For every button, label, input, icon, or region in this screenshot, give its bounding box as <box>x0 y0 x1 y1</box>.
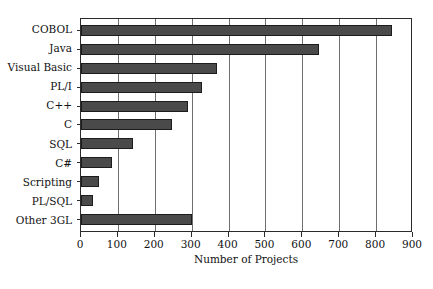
y-axis-tick <box>77 143 81 144</box>
bar-c <box>81 101 188 112</box>
bar-row <box>81 119 411 130</box>
x-axis-tick-label-800: 800 <box>365 237 385 251</box>
y-axis-label-sql: SQL <box>0 139 76 150</box>
bar-row <box>81 214 411 225</box>
y-axis-label-pl-sql: PL/SQL <box>0 196 76 207</box>
bar-c <box>81 157 112 168</box>
y-axis-label-scripting: Scripting <box>0 177 76 188</box>
bar-row <box>81 25 411 36</box>
x-axis-tick-label-700: 700 <box>328 237 348 251</box>
x-axis-title: Number of Projects <box>80 253 412 265</box>
y-axis-tick <box>77 162 81 163</box>
bar-chart: COBOL Java Visual Basic PL/I C++ C SQL C… <box>0 0 433 289</box>
x-axis-tick-label-900: 900 <box>402 237 422 251</box>
y-axis-tick <box>77 124 81 125</box>
bar-pl-i <box>81 82 202 93</box>
bar-row <box>81 157 411 168</box>
y-axis-category-labels: COBOL Java Visual Basic PL/I C++ C SQL C… <box>0 18 76 232</box>
bar-visual-basic <box>81 63 217 74</box>
bar-java <box>81 44 319 55</box>
x-axis-tick-label-500: 500 <box>254 237 274 251</box>
y-axis-tick <box>77 68 81 69</box>
bar-other-3gl <box>81 214 192 225</box>
x-axis-tick-label-200: 200 <box>144 237 164 251</box>
x-axis-tick-label-400: 400 <box>218 237 238 251</box>
bar-row <box>81 176 411 187</box>
bar-cobol <box>81 25 392 36</box>
x-axis-tick-label-300: 300 <box>181 237 201 251</box>
y-axis-label-other-3gl: Other 3GL <box>0 215 76 226</box>
bar-c <box>81 119 172 130</box>
y-axis-tick <box>77 181 81 182</box>
bar-sql <box>81 138 133 149</box>
bar-series <box>81 19 411 231</box>
y-axis-label-cobol: COBOL <box>0 24 76 35</box>
y-axis-tick <box>77 49 81 50</box>
x-axis-tick-label-600: 600 <box>291 237 311 251</box>
y-axis-label-java: Java <box>0 43 76 54</box>
y-axis-tick <box>77 219 81 220</box>
bar-row <box>81 44 411 55</box>
bar-scripting <box>81 176 99 187</box>
bar-row <box>81 63 411 74</box>
plot-area <box>80 18 412 232</box>
y-axis-label-c: C <box>0 119 76 130</box>
bar-row <box>81 138 411 149</box>
y-axis-tick <box>77 106 81 107</box>
x-axis-tick-label-100: 100 <box>107 237 127 251</box>
y-axis-tick <box>77 30 81 31</box>
y-axis-tick <box>77 200 81 201</box>
bar-row <box>81 195 411 206</box>
y-axis-label-csharp: C# <box>0 158 76 169</box>
bar-pl-sql <box>81 195 93 206</box>
bar-row <box>81 101 411 112</box>
y-axis-label-cpp: C++ <box>0 100 76 111</box>
y-axis-label-visual-basic: Visual Basic <box>0 62 76 73</box>
bar-row <box>81 82 411 93</box>
y-axis-tick <box>77 87 81 88</box>
x-axis-tick-label-0: 0 <box>77 237 84 251</box>
y-axis-label-pl-i: PL/I <box>0 81 76 92</box>
x-axis-tick-labels: 0100200300400500600700800900 <box>80 237 412 251</box>
